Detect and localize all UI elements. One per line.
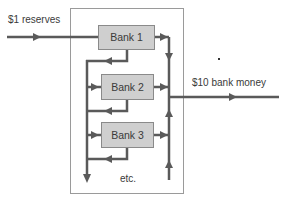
bank-2-label: Bank 2: [111, 81, 144, 93]
bank-1: Bank 1: [86, 26, 169, 66]
output-arrow: [169, 93, 279, 101]
input-arrow: [7, 33, 98, 41]
bank-2: Bank 2: [86, 75, 169, 116]
output-label: $10 bank money: [192, 77, 266, 88]
money-multiplier-diagram: $1 reserves $10 bank money Bank 1 Bank 2: [0, 0, 287, 199]
input-label: $1 reserves: [8, 14, 60, 25]
left-distribution-line: [83, 60, 91, 183]
etc-label: etc.: [120, 173, 136, 184]
bank-1-label: Bank 1: [110, 31, 143, 43]
stray-dot: [218, 58, 220, 60]
bank-3: Bank 3: [86, 123, 169, 164]
bank-3-label: Bank 3: [111, 129, 144, 141]
right-collector-line: [165, 37, 173, 180]
